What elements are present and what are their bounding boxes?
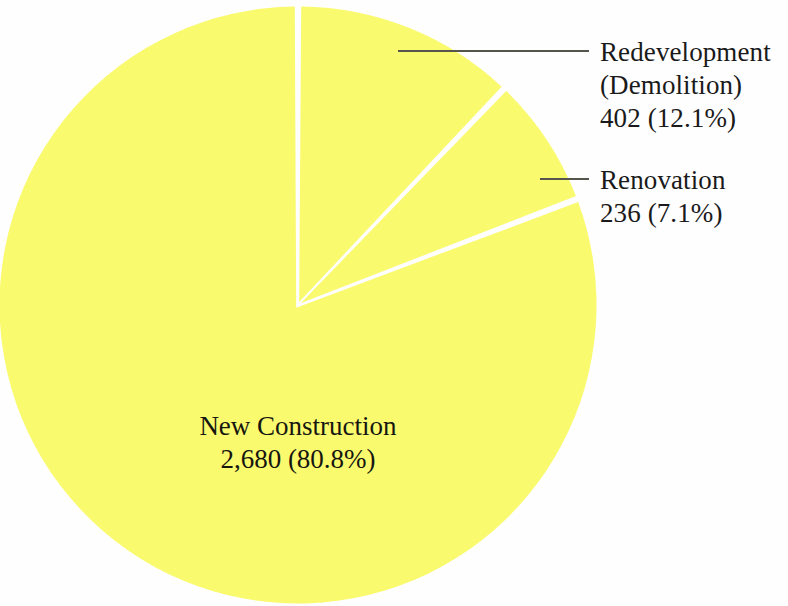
- slice-label-new-construction-name: New Construction: [0, 410, 596, 443]
- slice-label-renovation: Renovation 236 (7.1%): [600, 164, 725, 230]
- pie-chart-figure: Redevelopment (Demolition) 402 (12.1%) R…: [0, 0, 788, 606]
- slice-label-redevelopment-name: Redevelopment: [600, 36, 771, 69]
- slice-label-renovation-value: 236 (7.1%): [600, 197, 725, 230]
- slice-label-new-construction: New Construction 2,680 (80.8%): [0, 410, 596, 477]
- slice-label-renovation-name: Renovation: [600, 164, 725, 197]
- slice-label-redevelopment: Redevelopment (Demolition) 402 (12.1%): [600, 36, 771, 135]
- slice-label-redevelopment-subname: (Demolition): [600, 69, 771, 102]
- slice-label-redevelopment-value: 402 (12.1%): [600, 102, 771, 135]
- slice-label-new-construction-value: 2,680 (80.8%): [0, 443, 596, 476]
